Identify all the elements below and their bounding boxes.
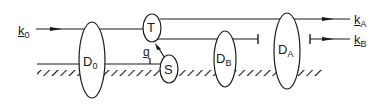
d0-label: D0 [83, 55, 97, 71]
s-label: S [164, 63, 173, 76]
beam-b-arrow-icon [322, 37, 334, 41]
beam-a-arrow-icon [322, 17, 334, 21]
da-label: DA [278, 43, 293, 59]
output-b-label: kB [354, 33, 367, 49]
diagram-lines [0, 0, 387, 105]
input-beam-label: k0 [18, 24, 30, 40]
q-label: q [143, 46, 150, 58]
input-beam-arrow-icon [50, 27, 62, 31]
output-a-label: kA [354, 13, 367, 29]
interferometer-diagram: k0 D0 T q S DB DA kA kB [0, 0, 387, 105]
t-label: T [147, 21, 155, 34]
db-label: DB [216, 52, 231, 68]
q-arrow-head-icon [155, 43, 161, 50]
